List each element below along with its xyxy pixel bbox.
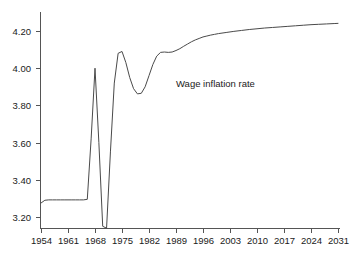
- y-axis-group: 3.203.403.603.804.004.20: [13, 12, 41, 229]
- chart-annotations: Wage inflation rate: [176, 78, 255, 89]
- y-tick-marks: [36, 32, 41, 218]
- y-tick-label: 3.40: [13, 175, 32, 186]
- y-tick-label: 3.80: [13, 100, 32, 111]
- x-tick-label: 2024: [301, 235, 322, 246]
- x-tick-label: 2010: [247, 235, 268, 246]
- x-tick-labels: 1954196119681975198219891996200320102017…: [31, 235, 349, 246]
- y-tick-labels: 3.203.403.603.804.004.20: [13, 26, 32, 223]
- x-tick-label: 1954: [31, 235, 52, 246]
- x-axis-group: 1954196119681975198219891996200320102017…: [31, 229, 349, 247]
- x-tick-label: 1982: [139, 235, 160, 246]
- x-tick-label: 1968: [85, 235, 106, 246]
- x-tick-label: 2017: [274, 235, 295, 246]
- x-tick-label: 2003: [220, 235, 241, 246]
- x-tick-marks: [42, 229, 339, 234]
- wage-inflation-chart: 3.203.403.603.804.004.20 195419611968197…: [0, 0, 359, 265]
- y-tick-label: 3.60: [13, 138, 32, 149]
- wage-inflation-rate-line: [41, 23, 338, 228]
- x-tick-label: 1975: [112, 235, 133, 246]
- series-group: [41, 23, 338, 228]
- y-tick-label: 4.00: [13, 63, 32, 74]
- x-tick-label: 2031: [328, 235, 349, 246]
- y-tick-label: 3.20: [13, 212, 32, 223]
- x-tick-label: 1996: [193, 235, 214, 246]
- x-tick-label: 1989: [166, 235, 187, 246]
- x-tick-label: 1961: [58, 235, 79, 246]
- series-annotation-label: Wage inflation rate: [176, 78, 255, 89]
- chart-canvas: 3.203.403.603.804.004.20 195419611968197…: [0, 0, 359, 265]
- y-tick-label: 4.20: [13, 26, 32, 37]
